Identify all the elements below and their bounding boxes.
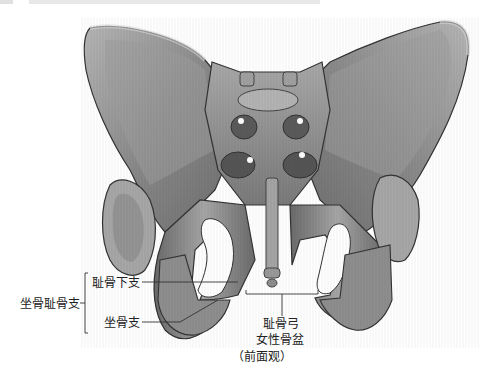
label-inferior-pubic-ramus: 耻骨下支 [92,276,140,290]
label-ischial-ramus: 坐骨支 [104,316,140,330]
figure-caption-view: （前面观） [232,350,292,364]
pelvis-illustration [0,0,493,379]
label-pubic-arch: 耻骨弓 [263,317,299,331]
label-ischiopubic-ramus: 坐骨耻骨支 [20,297,80,311]
illustration-texture [80,18,480,348]
figure-caption-title: 女性骨盆 [256,333,304,347]
